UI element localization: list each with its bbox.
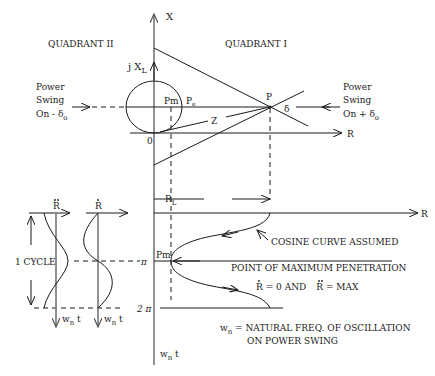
rddot-dot1-icon xyxy=(318,280,320,282)
quadrant-i-label: QUADRANT I xyxy=(225,39,287,49)
rddot-label: R xyxy=(53,201,60,211)
z-line-a xyxy=(160,121,208,132)
cosine-note: COSINE CURVE ASSUMED xyxy=(271,237,398,247)
delta-label: δ xyxy=(284,104,289,114)
rdot-dot-icon xyxy=(258,280,260,282)
power-swing-diagram: X QUADRANT II QUADRANT I j XL Power Swin… xyxy=(0,0,435,376)
rdot-label-dot xyxy=(97,199,99,201)
pm-lower-label: Pm xyxy=(156,250,171,260)
r-axis-label: R xyxy=(347,129,354,139)
rddot-label-dot1 xyxy=(54,199,56,201)
quadrant-ii-label: QUADRANT II xyxy=(48,39,114,49)
z-line-b xyxy=(226,107,270,117)
pi-label: π xyxy=(140,257,148,267)
z-label: Z xyxy=(211,116,217,126)
power-swing-left-1: Power xyxy=(36,82,65,92)
two-pi-label: 2 π xyxy=(136,304,153,314)
lower-r-axis-label: R xyxy=(421,209,428,219)
rdot-label: R xyxy=(95,201,102,211)
max-penetration-note: POINT OF MAXIMUM PENETRATION xyxy=(231,263,407,273)
p-label: P xyxy=(266,92,272,102)
rddot-time-label: wn t xyxy=(62,314,81,327)
power-swing-right-2: Swing xyxy=(343,95,372,105)
rddot-dot2-icon xyxy=(321,280,323,282)
power-swing-right-3: On + δo xyxy=(343,109,379,122)
main-time-label: wn t xyxy=(160,349,179,362)
upper-blinder-line xyxy=(154,48,308,126)
origin-label: 0 xyxy=(147,136,153,146)
cycle-label: 1 CYCLE xyxy=(15,257,56,267)
rl-label: RL xyxy=(165,194,177,207)
x-axis-label: X xyxy=(166,11,174,22)
pm-label: Pm xyxy=(164,96,179,106)
rdot-time-label: wn t xyxy=(104,314,123,327)
pe-label: Pe xyxy=(186,96,196,107)
condition-note: R = 0 ANDR = MAX xyxy=(256,282,359,292)
power-swing-left-2: Swing xyxy=(36,95,65,105)
jxl-label: j XL xyxy=(127,61,147,75)
wn-definition-line2: ON POWER SWING xyxy=(247,336,338,346)
wn-definition-line1: wn = NATURAL FREQ. OF OSCILLATION xyxy=(220,323,411,336)
power-swing-right-1: Power xyxy=(343,82,372,92)
rddot-label-dot2 xyxy=(57,199,59,201)
cosine-pointer-icon xyxy=(257,230,268,240)
rx-plane xyxy=(72,14,342,365)
power-swing-left-3: On - δo xyxy=(36,109,68,122)
